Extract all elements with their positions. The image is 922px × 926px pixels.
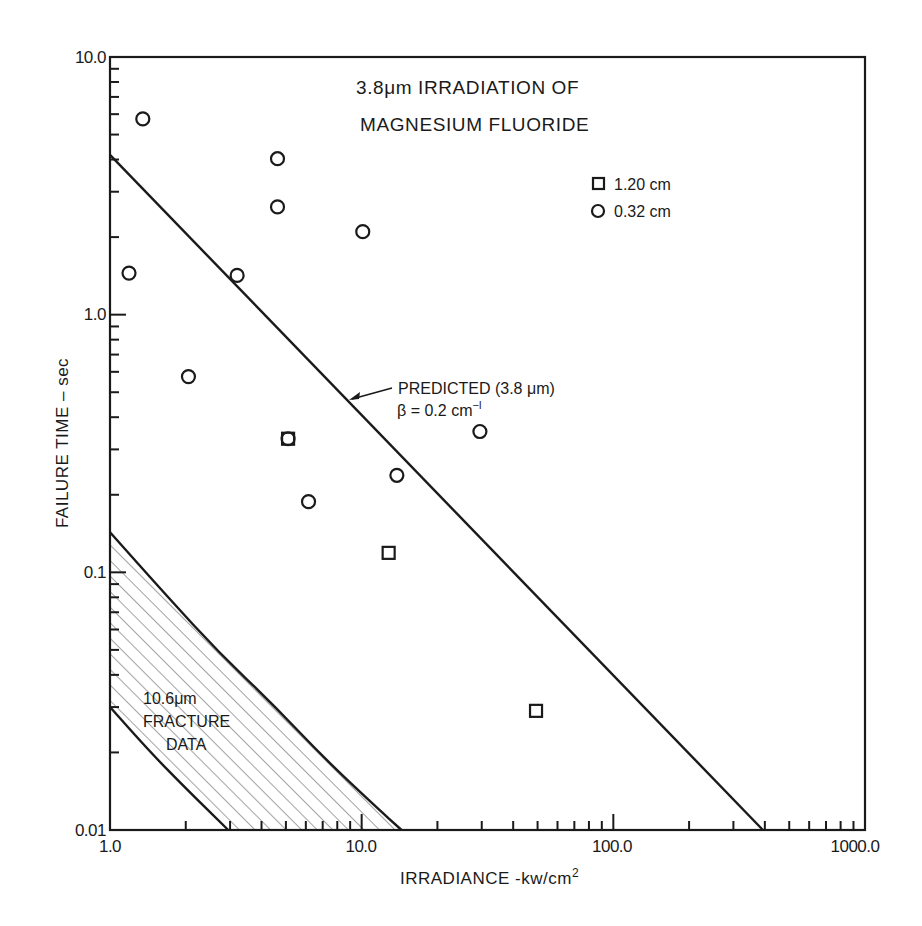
predicted-annotation: PREDICTED (3.8 μm) β = 0.2 cm−l: [349, 380, 555, 419]
y-tick-001: 0.01: [75, 821, 106, 840]
circle-marker-icon: [231, 269, 244, 282]
legend-square-icon: [593, 178, 604, 189]
fracture-data-region: [110, 532, 402, 830]
circle-marker-icon: [302, 495, 315, 508]
square-marker-icon: [530, 705, 542, 717]
y-tick-10: 10.0: [75, 48, 106, 67]
x-tick-1000: 1000.0: [831, 837, 880, 856]
circle-marker-icon: [136, 112, 149, 125]
x-tick-10: 10.0: [345, 837, 376, 856]
circle-marker-icon: [182, 370, 195, 383]
fracture-label-line3: DATA: [166, 736, 207, 753]
legend: 1.20 cm 0.32 cm: [592, 176, 671, 220]
y-tick-01: 0.1: [84, 563, 106, 582]
circle-marker-icon: [271, 200, 284, 213]
circle-marker-icon: [123, 267, 136, 280]
circle-marker-icon: [390, 469, 403, 482]
y-tick-labels: 10.0 1.0 0.1 0.01: [75, 48, 106, 840]
y-axis-title: FAILURE TIME – sec: [53, 358, 72, 528]
x-axis-title: IRRADIANCE -kw/cm2: [400, 866, 579, 888]
circle-marker-icon: [282, 432, 295, 445]
chart-title-line2: MAGNESIUM FLUORIDE: [360, 114, 589, 135]
arrow-head-icon: [349, 392, 360, 400]
beta-label: β = 0.2 cm−l: [397, 399, 481, 419]
square-marker-icon: [383, 547, 395, 559]
x-tick-labels: 1.0 10.0 100.0 1000.0: [99, 837, 880, 856]
predicted-label: PREDICTED (3.8 μm): [398, 380, 555, 397]
circle-marker-icon: [356, 225, 369, 238]
circle-marker-icon: [271, 152, 284, 165]
legend-label-circle: 0.32 cm: [614, 203, 671, 220]
y-tick-1: 1.0: [84, 305, 106, 324]
fracture-label-line2: FRACTURE: [143, 713, 230, 730]
fracture-label-line1: 10.6μm: [143, 690, 197, 707]
circle-marker-icon: [473, 425, 486, 438]
x-tick-100: 100.0: [592, 837, 632, 856]
legend-label-square: 1.20 cm: [614, 176, 671, 193]
chart-title-line1: 3.8μm IRRADIATION OF: [356, 77, 579, 98]
failure-time-chart: 1.0 10.0 100.0 1000.0 10.0 1.0 0.1 0.01 …: [0, 0, 922, 926]
legend-circle-icon: [592, 205, 604, 217]
